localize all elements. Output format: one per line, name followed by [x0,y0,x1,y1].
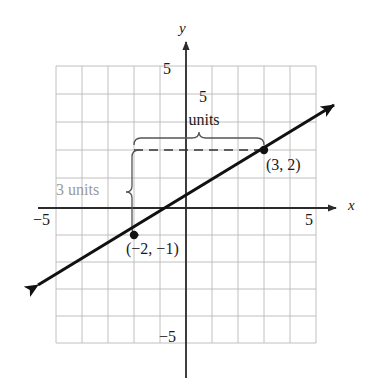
y-axis-tick-negative-5: −5 [159,329,176,345]
x-axis-tick-negative-5: −5 [33,212,50,228]
axes [38,42,336,378]
rise-brace [126,150,139,235]
run-value-label: 5 [190,89,216,105]
rise-units-label: 3 units [56,182,99,198]
plotted-point-upper-right [260,146,268,154]
run-brace [134,132,264,145]
y-axis-tick-5: 5 [163,61,171,77]
x-axis-label: x [348,198,355,213]
x-axis-tick-5: 5 [305,212,313,228]
point-label-lower-left: (−2, −1) [126,241,179,257]
point-label-upper-right: (3, 2) [266,157,301,173]
coordinate-plane-figure: y x 5 −5 −5 5 (−2, −1) (3, 2) 5 units 3 … [0,0,379,391]
plotted-point-lower-left [130,231,138,239]
run-unit-label: units [178,112,230,128]
y-axis-label: y [179,21,186,36]
